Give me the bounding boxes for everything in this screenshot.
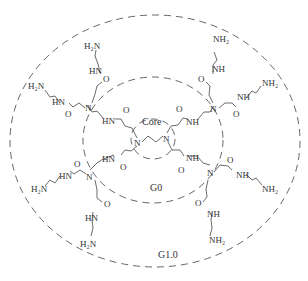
g1-carbonyl: O xyxy=(104,199,111,209)
g0-carbonyl: O xyxy=(123,105,130,115)
g1-amine: H₂N xyxy=(31,184,48,194)
g1-amine: H₂N xyxy=(28,81,45,91)
g1-carbonyl: O xyxy=(227,155,234,165)
g1-amine: NH₂ xyxy=(262,184,278,194)
g1-amine: NH₂ xyxy=(209,235,225,245)
core-label: Core xyxy=(142,116,162,127)
g1-amine: NH₂ xyxy=(262,78,278,88)
g0-amide: NH xyxy=(186,153,199,163)
g0-amide: HN xyxy=(102,116,115,126)
g1-amide: NH xyxy=(237,92,250,102)
core-n-right: N xyxy=(163,134,170,144)
g1-amide: HN xyxy=(85,213,98,223)
g1-amine: NH₂ xyxy=(213,34,229,44)
g0-amide: NH xyxy=(186,117,199,127)
dendrimer-diagram: N N O HN HN O O NH NH O N N N N xyxy=(0,0,308,281)
g0-carbonyl: O xyxy=(176,104,183,114)
g1-bonds xyxy=(45,50,262,236)
g1-carbonyl: O xyxy=(74,159,81,169)
g1-amide: HN xyxy=(59,171,72,181)
g1-carbonyl: O xyxy=(233,109,240,119)
g1-carbonyl: O xyxy=(198,74,205,84)
g1-carbonyl: O xyxy=(103,74,110,84)
core-n-left: N xyxy=(134,138,141,148)
g1-amide: NH xyxy=(207,209,220,219)
g1-label: G1.0 xyxy=(158,249,178,260)
g1-carbonyl: O xyxy=(65,109,72,119)
g1-amide: HN xyxy=(89,66,102,76)
g1-amine: H₂N xyxy=(80,239,97,249)
g0-amide: HN xyxy=(102,154,115,164)
g1-amide: HN xyxy=(52,97,65,107)
g1-amide: NH xyxy=(236,170,249,180)
branch-n-ul: N xyxy=(85,103,92,113)
g0-carbonyl: O xyxy=(120,162,127,172)
g0-carbonyl: O xyxy=(178,165,185,175)
branch-n-lr: N xyxy=(207,168,214,178)
branch-n-ll: N xyxy=(86,172,93,182)
dendrimer-structure: N N O HN HN O O NH NH O N N N N xyxy=(0,0,308,281)
branch-n-ur: N xyxy=(210,104,217,114)
g1-amine: H₂N xyxy=(84,41,101,51)
g1-amide: NH xyxy=(212,64,225,74)
core-bonds xyxy=(142,136,163,142)
g0-label: G0 xyxy=(150,182,162,193)
g1-carbonyl: O xyxy=(195,198,202,208)
